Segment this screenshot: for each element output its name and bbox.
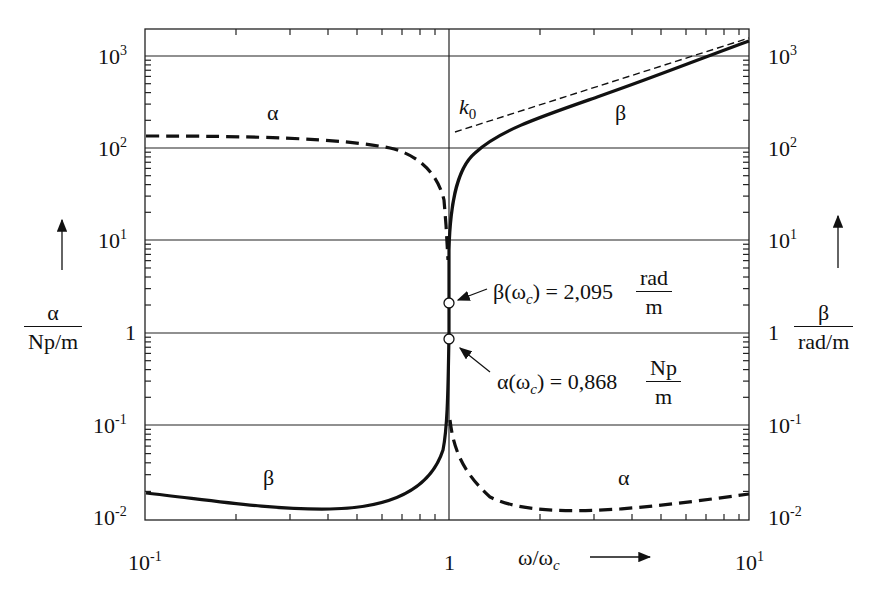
- alpha-label-upper: α: [267, 102, 279, 124]
- left-axis-label: αNp/m: [24, 300, 82, 355]
- x-tick-10: 101: [735, 550, 764, 574]
- right-tick-1: 1: [768, 322, 779, 344]
- x-tick-1: 1: [444, 552, 455, 574]
- alpha-wc-unit: Npm: [646, 355, 681, 410]
- alpha-annotation-arrow: [460, 348, 490, 372]
- left-tick-1e3: 103: [98, 44, 127, 68]
- left-tick-1e-2: 10-2: [93, 505, 127, 529]
- right-tick-1e2: 102: [768, 136, 797, 160]
- right-tick-1e-2: 10-2: [768, 505, 802, 529]
- alpha-wc-point: [444, 334, 454, 344]
- right-tick-1e1: 101: [768, 228, 797, 252]
- left-tick-1e1: 101: [98, 228, 127, 252]
- beta-label-bottom: β: [263, 467, 274, 489]
- k0-label: k0: [459, 96, 476, 122]
- right-axis-label: βrad/m: [794, 300, 853, 355]
- k0-asymptote: [455, 38, 749, 132]
- right-tick-1e3: 103: [768, 44, 797, 68]
- beta-wc-point: [444, 298, 454, 308]
- x-tick-0.1: 10-1: [128, 550, 162, 574]
- x-axis-label: ω/ωc: [518, 547, 560, 573]
- left-tick-1e-1: 10-1: [93, 413, 127, 437]
- chart-plot-area: [0, 0, 893, 593]
- left-tick-1: 1: [125, 322, 136, 344]
- right-tick-1e-1: 10-1: [768, 413, 802, 437]
- alpha-label-bottom: α: [618, 467, 630, 489]
- beta-label-upper: β: [615, 102, 626, 124]
- beta-wc-annotation: β(ωc) = 2,095: [493, 281, 613, 307]
- left-tick-1e2: 102: [98, 136, 127, 160]
- alpha-wc-annotation: α(ωc) = 0,868: [497, 371, 617, 397]
- beta-wc-unit: radm: [636, 265, 672, 320]
- beta-annotation-arrow: [458, 289, 487, 300]
